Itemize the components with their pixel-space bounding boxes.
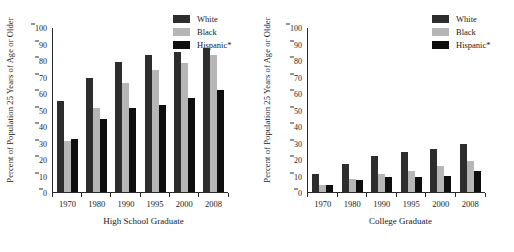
- bar: [188, 98, 195, 192]
- bar-group: [170, 28, 199, 192]
- x-tick-mark: [198, 193, 199, 197]
- y-tick-mark: [290, 139, 294, 140]
- y-tick-label: 50: [294, 106, 307, 115]
- bar: [217, 90, 224, 192]
- y-tick-label: 90: [294, 40, 307, 49]
- x-axis-end-tick: [228, 193, 229, 197]
- bar: [326, 185, 333, 192]
- x-tick-label: 1995: [141, 199, 170, 209]
- x-tick-mark: [337, 193, 338, 197]
- y-tick-mark: [35, 156, 39, 157]
- y-tick-label: 0: [43, 189, 52, 198]
- y-tick-label: 100: [290, 24, 307, 33]
- x-tick-label: 1990: [111, 199, 140, 209]
- legend-label-white: White: [197, 14, 218, 24]
- legend-swatch-white-icon: [432, 15, 449, 23]
- bar-group: [199, 28, 228, 192]
- x-tick-mark: [396, 193, 397, 197]
- y-tick-mark: [290, 123, 294, 124]
- bar: [319, 185, 326, 192]
- y-tick-mark: [39, 189, 43, 190]
- y-tick-label: 60: [39, 90, 52, 99]
- bar-group: [367, 28, 397, 192]
- x-tick-label: 2000: [426, 199, 456, 209]
- x-tick-mark: [455, 193, 456, 197]
- bar: [349, 179, 356, 192]
- bar: [100, 119, 107, 192]
- bar-group: [456, 28, 486, 192]
- x-tick-mark: [140, 193, 141, 197]
- bar: [174, 52, 181, 192]
- y-tick-mark: [286, 24, 290, 25]
- legend-item-white: White: [432, 12, 490, 25]
- bar: [408, 171, 415, 192]
- x-tick-mark: [81, 193, 82, 197]
- y-tick-mark: [35, 73, 39, 74]
- x-tick-mark: [110, 193, 111, 197]
- bar: [342, 164, 349, 192]
- x-axis-end-tick: [485, 193, 486, 197]
- x-tick-label: 2000: [170, 199, 199, 209]
- bar: [378, 174, 385, 192]
- y-tick-label: 70: [39, 73, 52, 82]
- bar-group: [308, 28, 338, 192]
- y-tick-mark: [35, 139, 39, 140]
- bar: [57, 101, 64, 192]
- y-tick-mark: [290, 57, 294, 58]
- bar: [129, 108, 136, 192]
- x-tick-label: 1970: [53, 199, 82, 209]
- y-tick-label: 40: [294, 123, 307, 132]
- y-tick-label: 20: [39, 156, 52, 165]
- y-tick-label: 70: [294, 73, 307, 82]
- legend-label-white: White: [456, 14, 477, 24]
- y-tick-label: 30: [39, 139, 52, 148]
- bar: [460, 144, 467, 192]
- bar-group: [338, 28, 368, 192]
- bar-groups: [53, 28, 228, 192]
- bar: [203, 48, 210, 192]
- y-tick-mark: [290, 172, 294, 173]
- x-tick-label: 1990: [367, 199, 397, 209]
- y-tick-mark: [35, 106, 39, 107]
- bar-group: [53, 28, 82, 192]
- bar-group: [111, 28, 140, 192]
- bar: [385, 177, 392, 192]
- x-tick-mark: [425, 193, 426, 197]
- chart-panel-high-school: Percent of Population 25 Years of Age or…: [0, 0, 257, 252]
- y-tick-label: 10: [294, 172, 307, 181]
- y-tick-label: 90: [39, 40, 52, 49]
- chart-panel-college: Percent of Population 25 Years of Age or…: [257, 0, 514, 252]
- bar-group: [141, 28, 170, 192]
- y-tick-mark: [290, 156, 294, 157]
- bar: [93, 108, 100, 192]
- x-tick-label: 2008: [456, 199, 486, 209]
- y-tick-mark: [31, 24, 35, 25]
- y-tick-mark: [290, 106, 294, 107]
- bar: [152, 70, 159, 192]
- y-tick-mark: [35, 40, 39, 41]
- bar: [64, 141, 71, 192]
- bar: [371, 156, 378, 192]
- bar-groups: [308, 28, 485, 192]
- x-tick-label: 1980: [338, 199, 368, 209]
- y-tick-label: 10: [39, 172, 52, 181]
- y-tick-label: 40: [39, 123, 52, 132]
- x-tick-label: 2008: [199, 199, 228, 209]
- y-tick-label: 0: [298, 189, 307, 198]
- y-tick-mark: [35, 123, 39, 124]
- x-axis-title: High School Graduate: [40, 216, 247, 226]
- x-tick-mark: [307, 193, 308, 197]
- y-tick-label: 30: [294, 139, 307, 148]
- bar: [444, 176, 451, 193]
- bar-group: [397, 28, 427, 192]
- y-tick-mark: [35, 90, 39, 91]
- y-axis-title: Percent of Population 25 Years of Age or…: [259, 0, 275, 200]
- y-tick-label: 50: [39, 106, 52, 115]
- y-tick-mark: [290, 40, 294, 41]
- bar: [145, 55, 152, 192]
- x-tick-label: 1970: [308, 199, 338, 209]
- plot-area: 0102030405060708090100 19701980199019952…: [52, 28, 228, 193]
- bar: [210, 55, 217, 192]
- bar: [181, 63, 188, 192]
- bar: [122, 83, 129, 192]
